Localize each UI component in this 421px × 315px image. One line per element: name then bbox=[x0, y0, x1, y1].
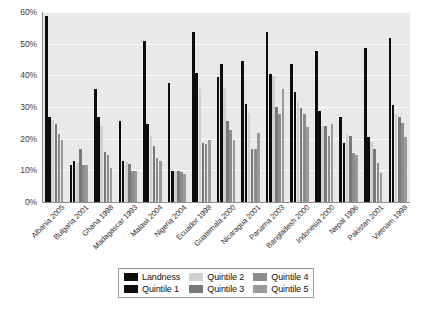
bar bbox=[183, 174, 186, 202]
legend-item[interactable]: Landness bbox=[124, 272, 180, 282]
bar-group bbox=[42, 12, 67, 202]
legend-swatch bbox=[189, 273, 203, 281]
bar-group bbox=[238, 12, 263, 202]
bar-group bbox=[140, 12, 165, 202]
bar bbox=[355, 155, 358, 202]
legend-label: Quintile 4 bbox=[271, 272, 308, 282]
y-axis-tick: 0% bbox=[25, 197, 37, 207]
y-axis: 0%10%20%30%40%50%60% bbox=[0, 12, 40, 202]
plot-area bbox=[42, 12, 410, 202]
y-axis-tick: 60% bbox=[20, 7, 37, 17]
bar bbox=[110, 168, 113, 202]
bar bbox=[404, 137, 407, 202]
legend-swatch bbox=[253, 273, 267, 281]
legend-swatch bbox=[124, 285, 138, 293]
bar bbox=[306, 127, 309, 202]
bar-group bbox=[189, 12, 214, 202]
legend-item[interactable]: Quintile 5 bbox=[253, 284, 308, 294]
bar bbox=[85, 165, 88, 202]
bar-group bbox=[214, 12, 239, 202]
legend-label: Landness bbox=[142, 272, 180, 282]
bar-group bbox=[165, 12, 190, 202]
legend-label: Quintile 3 bbox=[207, 284, 244, 294]
bar bbox=[208, 140, 211, 202]
legend-swatch bbox=[253, 285, 267, 293]
legend-item[interactable]: Quintile 2 bbox=[189, 272, 244, 282]
bar-group bbox=[67, 12, 92, 202]
bar-group bbox=[361, 12, 386, 202]
y-axis-tick: 20% bbox=[20, 134, 37, 144]
bar bbox=[331, 124, 334, 202]
bar bbox=[233, 140, 236, 202]
legend-label: Quintile 2 bbox=[207, 272, 244, 282]
bar bbox=[134, 171, 137, 202]
bar-group bbox=[287, 12, 312, 202]
legend-item[interactable]: Quintile 4 bbox=[253, 272, 308, 282]
y-axis-tick: 10% bbox=[20, 165, 37, 175]
x-axis-labels: Albania 2005Bulgaria 2001Ghana 1998Madag… bbox=[42, 203, 410, 269]
bar bbox=[282, 89, 285, 202]
bar bbox=[61, 140, 64, 202]
legend-label: Quintile 1 bbox=[142, 284, 179, 294]
legend-label: Quintile 5 bbox=[271, 284, 308, 294]
y-axis-tick: 50% bbox=[20, 39, 37, 49]
y-axis-tick: 30% bbox=[20, 102, 37, 112]
bar-group bbox=[312, 12, 337, 202]
bar-group bbox=[385, 12, 410, 202]
legend-swatch bbox=[189, 285, 203, 293]
legend-grid: LandnessQuintile 1Quintile 2Quintile 3Qu… bbox=[124, 272, 308, 294]
legend-item[interactable]: Quintile 3 bbox=[189, 284, 244, 294]
legend-swatch bbox=[124, 273, 138, 281]
y-axis-line bbox=[42, 12, 43, 202]
chart-legend: LandnessQuintile 1Quintile 2Quintile 3Qu… bbox=[118, 268, 314, 298]
bar bbox=[380, 173, 383, 202]
bar-group bbox=[336, 12, 361, 202]
bar-group bbox=[116, 12, 141, 202]
legend-item[interactable]: Quintile 1 bbox=[124, 284, 180, 294]
y-axis-tick: 40% bbox=[20, 70, 37, 80]
bar-groups bbox=[42, 12, 410, 202]
bar-group bbox=[91, 12, 116, 202]
bar bbox=[159, 161, 162, 202]
bar-group bbox=[263, 12, 288, 202]
bar-chart: 0%10%20%30%40%50%60% Albania 2005Bulgari… bbox=[0, 0, 421, 315]
bar bbox=[257, 133, 260, 202]
